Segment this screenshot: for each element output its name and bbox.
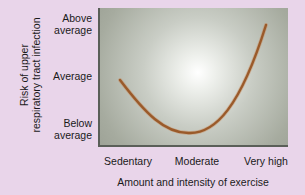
y-axis-label: Risk of upper respiratory tract infectio…: [18, 18, 42, 133]
y-tick-average: Average: [53, 70, 92, 82]
j-curve: [100, 8, 290, 147]
y-tick-line: Below: [54, 117, 92, 129]
y-tick-below-average: Below average: [54, 117, 92, 141]
y-axis-label-line: Risk of upper: [18, 18, 30, 133]
y-tick-line: average: [54, 24, 92, 36]
x-tick-sedentary: Sedentary: [104, 155, 152, 167]
y-tick-line: Average: [53, 70, 92, 82]
y-tick-above-average: Above average: [54, 12, 92, 36]
y-axis-label-line: respiratory tract infection: [30, 18, 42, 133]
plot-area: [98, 8, 288, 147]
x-tick-moderate: Moderate: [175, 155, 219, 167]
y-tick-line: average: [54, 129, 92, 141]
x-axis-label: Amount and intensity of exercise: [117, 176, 269, 188]
x-tick-very-high: Very high: [244, 155, 288, 167]
y-tick-line: Above: [54, 12, 92, 24]
